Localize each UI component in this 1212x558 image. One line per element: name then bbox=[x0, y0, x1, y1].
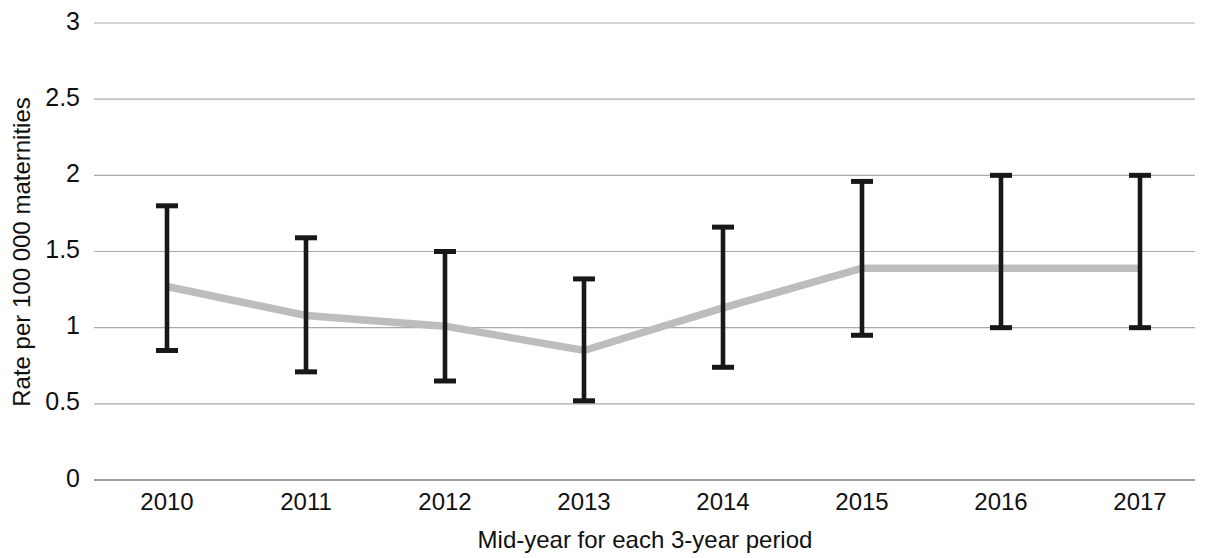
error-bar-2012 bbox=[434, 252, 456, 381]
error-bar-2013 bbox=[573, 279, 595, 401]
y-tick-label-3: 3 bbox=[66, 7, 80, 35]
x-axis-tick-labels: 20102011201220132014201520162017 bbox=[140, 488, 1166, 515]
y-tick-label-1.5: 1.5 bbox=[45, 235, 80, 263]
gridlines bbox=[94, 23, 1195, 480]
chart-container: 00.511.522.53 20102011201220132014201520… bbox=[0, 0, 1212, 558]
y-tick-label-2: 2 bbox=[66, 159, 80, 187]
y-tick-label-2.5: 2.5 bbox=[45, 83, 80, 111]
x-tick-label-2014: 2014 bbox=[696, 488, 749, 515]
x-tick-label-2017: 2017 bbox=[1113, 488, 1166, 515]
line-chart-with-error-bars: 00.511.522.53 20102011201220132014201520… bbox=[0, 0, 1212, 558]
x-tick-label-2015: 2015 bbox=[835, 488, 888, 515]
series-line-1 bbox=[167, 268, 1140, 350]
error-bar-2015 bbox=[851, 181, 873, 335]
error-bar-2011 bbox=[295, 238, 317, 372]
x-tick-label-2010: 2010 bbox=[140, 488, 193, 515]
x-axis-title: Mid-year for each 3-year period bbox=[478, 526, 813, 553]
x-tick-label-2012: 2012 bbox=[418, 488, 471, 515]
x-tick-label-2016: 2016 bbox=[974, 488, 1027, 515]
x-tick-label-2011: 2011 bbox=[280, 488, 332, 515]
y-axis-title: Rate per 100 000 maternities bbox=[8, 97, 35, 407]
y-tick-label-1: 1 bbox=[66, 311, 80, 339]
y-axis-tick-labels: 00.511.522.53 bbox=[45, 7, 80, 492]
error-bar-2014 bbox=[712, 227, 734, 367]
error-bars bbox=[156, 175, 1151, 400]
error-bar-2010 bbox=[156, 206, 178, 351]
y-tick-label-0: 0 bbox=[66, 464, 80, 492]
data-series-line bbox=[167, 268, 1140, 350]
y-tick-label-0.5: 0.5 bbox=[45, 387, 80, 415]
x-tick-label-2013: 2013 bbox=[557, 488, 610, 515]
